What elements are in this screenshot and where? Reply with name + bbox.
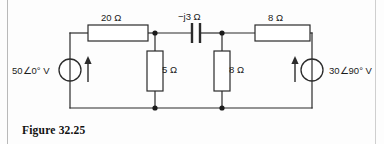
node-bot-right-dot [219,105,224,110]
figure-container: 20 Ω −j3 Ω 8 Ω 5 Ω 8 Ω 50∠0° V 30∠90° V … [0,0,384,144]
resistor-shunt-left-body [147,51,163,91]
source-left-arrow-icon [84,56,91,82]
resistor-top-right-body [255,25,310,41]
resistor-top-left-body [88,25,148,41]
resistor-top-left-label: 20 Ω [101,13,121,23]
source-right-label: 30∠90° V [329,66,372,76]
resistor-top-right-label: 8 Ω [268,13,283,23]
node-bot-left-dot [152,105,157,110]
node-top-right-dot [219,30,224,35]
resistor-shunt-right-label: 8 Ω [229,65,244,75]
circuit-wires [70,33,312,108]
figure-caption: Figure 32.25 [22,124,86,136]
source-right-arrow-icon [291,56,298,82]
capacitor-top-middle-plates [192,23,200,43]
source-left-label: 50∠0° V [12,66,50,76]
resistor-shunt-left-label: 5 Ω [162,65,177,75]
node-top-left-dot [152,30,157,35]
capacitor-top-middle-label: −j3 Ω [178,12,201,22]
resistor-shunt-right-body [214,51,230,91]
